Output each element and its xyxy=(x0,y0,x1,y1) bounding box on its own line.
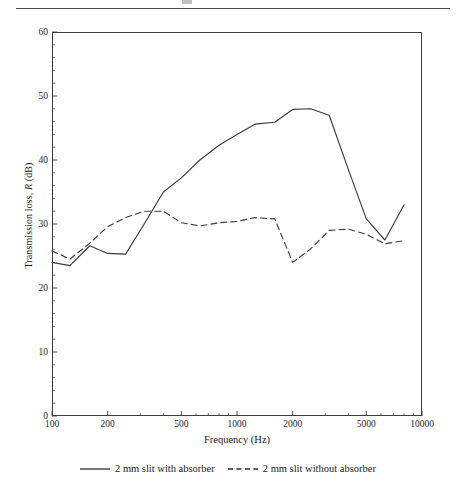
chart-legend: 2 mm slit with absorber2 mm slit without… xyxy=(0,463,456,474)
x-tick-label: 100 xyxy=(45,418,59,430)
y-axis-title-pre: Transmission loss, xyxy=(23,190,34,269)
x-tick-label: 2000 xyxy=(283,418,302,430)
dashed-line-icon xyxy=(228,465,258,473)
legend-item-1: 2 mm slit with absorber xyxy=(80,463,215,474)
x-tick-label: 1000 xyxy=(228,418,247,430)
x-axis-title: Frequency (Hz) xyxy=(52,434,422,445)
x-tick-label: 200 xyxy=(101,418,115,430)
data-series-group xyxy=(52,109,404,266)
legend-label: 2 mm slit with absorber xyxy=(115,463,215,474)
x-tick-label: 10000 xyxy=(410,418,434,430)
legend-item-2: 2 mm slit without absorber xyxy=(228,463,376,474)
x-tick-label: 5000 xyxy=(357,418,376,430)
y-tick-label: 50 xyxy=(22,91,48,101)
y-axis-title-symbol: R xyxy=(23,184,34,190)
y-tick-label: 10 xyxy=(22,347,48,357)
x-axis-tick-labels: 10020050010002000500010000 xyxy=(0,418,456,434)
plot-area xyxy=(52,32,422,416)
y-tick-label: 60 xyxy=(22,27,48,37)
series-line-2 xyxy=(52,211,404,262)
y-axis-title: Transmission loss, R (dB) xyxy=(23,121,34,311)
series-line-1 xyxy=(52,109,404,266)
page-top-cut-glyph xyxy=(182,0,192,4)
x-tick-label: 500 xyxy=(174,418,188,430)
page-header-rule xyxy=(16,8,450,9)
y-tick-marks xyxy=(52,32,57,416)
y-axis-title-post: (dB) xyxy=(23,162,34,183)
solid-line-icon xyxy=(80,465,110,473)
legend-label: 2 mm slit without absorber xyxy=(263,463,376,474)
x-tick-marks xyxy=(52,411,422,416)
figure-transmission-loss: 0102030405060 Transmission loss, R (dB) … xyxy=(0,14,456,478)
